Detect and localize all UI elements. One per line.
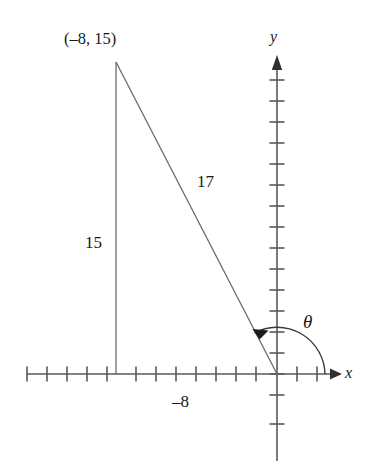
x-axis-group <box>27 367 342 382</box>
hypotenuse-segment <box>116 62 277 374</box>
terminal-point-label: (–8, 15) <box>64 31 116 48</box>
adjacent-length-label: –8 <box>172 393 189 410</box>
angle-arc-arrowhead <box>253 329 269 340</box>
triangle-group <box>116 62 277 374</box>
hypotenuse-length-label: 17 <box>197 173 214 190</box>
x-axis-arrowhead <box>330 369 342 380</box>
y-axis-group <box>270 55 285 461</box>
trigonometry-diagram: (–8, 15) 17 15 –8 θ x y <box>0 0 369 467</box>
angle-arc-group <box>253 327 326 374</box>
y-axis-label: y <box>270 29 277 45</box>
x-axis-label: x <box>345 365 352 381</box>
opposite-length-label: 15 <box>85 234 102 251</box>
theta-angle-label: θ <box>303 312 312 331</box>
y-axis-arrowhead <box>272 55 282 70</box>
